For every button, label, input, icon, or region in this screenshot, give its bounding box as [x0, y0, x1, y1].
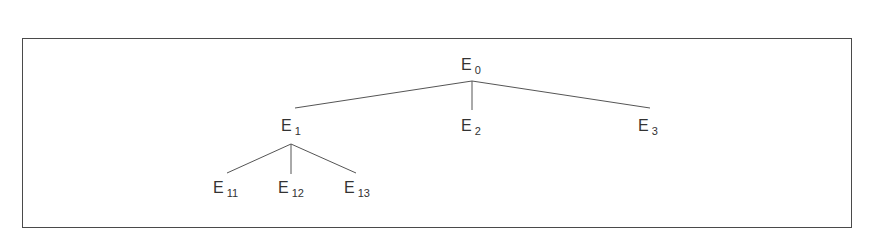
- node-e11-sub: 11: [227, 187, 238, 199]
- node-e2-base: E: [461, 117, 472, 134]
- node-e3: E3: [638, 118, 658, 134]
- node-e1-sub: 1: [295, 125, 301, 137]
- tree-edges: [0, 0, 871, 246]
- edge-e1-e13: [291, 144, 356, 173]
- node-e0: E0: [461, 57, 481, 73]
- node-e13-sub: 13: [358, 187, 370, 199]
- node-e12-sub: 12: [292, 187, 304, 199]
- node-e3-base: E: [638, 117, 649, 134]
- node-e1: E1: [281, 118, 301, 134]
- node-e2-sub: 2: [475, 125, 481, 137]
- edge-e0-e1: [295, 81, 472, 108]
- node-e1-base: E: [281, 117, 292, 134]
- edge-e1-e11: [227, 144, 291, 173]
- node-e0-base: E: [461, 56, 472, 73]
- node-e13: E13: [344, 180, 370, 196]
- node-e11-base: E: [213, 179, 224, 196]
- node-e3-sub: 3: [652, 125, 658, 137]
- edge-e0-e3: [472, 81, 650, 108]
- node-e12-base: E: [278, 179, 289, 196]
- node-e13-base: E: [344, 179, 355, 196]
- node-e2: E2: [461, 118, 481, 134]
- node-e0-sub: 0: [475, 64, 481, 76]
- node-e12: E12: [278, 180, 304, 196]
- node-e11: E11: [213, 180, 238, 196]
